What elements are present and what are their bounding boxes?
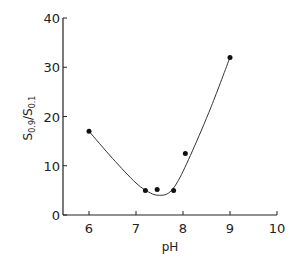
chart: 010203040 678910 pH S0.9/S0.1: [0, 0, 294, 263]
y-axis-label: S0.9/S0.1: [21, 96, 37, 141]
data-point: [171, 188, 176, 193]
data-point: [155, 187, 160, 192]
svg-text:S0.9/S0.1: S0.9/S0.1: [21, 96, 37, 141]
data-point: [183, 151, 188, 156]
x-axis-label: pH: [162, 240, 179, 254]
x-tick-label: 7: [132, 221, 140, 236]
axes: [63, 18, 277, 215]
y-tick-label: 40: [43, 11, 60, 26]
data-point: [228, 55, 233, 60]
x-tick-label: 10: [269, 221, 286, 236]
y-tick-label: 20: [43, 110, 60, 125]
y-label-sub1: 0.9: [28, 120, 37, 133]
y-label-main: S: [21, 133, 35, 141]
fitted-curve: [89, 57, 230, 195]
y-label-sub2: 0.1: [28, 96, 37, 109]
x-tick-label: 8: [179, 221, 187, 236]
y-tick-label: 30: [43, 60, 60, 75]
y-tick-label: 0: [52, 208, 60, 223]
y-label-main2: S: [21, 108, 35, 116]
x-tick-label: 9: [226, 221, 234, 236]
y-tick-label: 10: [43, 159, 60, 174]
data-points: [87, 55, 233, 193]
data-point: [143, 188, 148, 193]
data-point: [87, 129, 92, 134]
x-tick-label: 6: [85, 221, 93, 236]
